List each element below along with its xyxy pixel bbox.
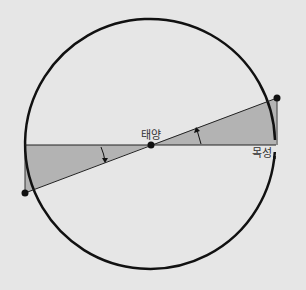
sun-point bbox=[148, 142, 155, 149]
orbit-diagram bbox=[0, 0, 306, 290]
lower-left-point bbox=[22, 190, 29, 197]
sun-label: 태양 bbox=[141, 130, 161, 141]
upper-right-point bbox=[274, 95, 281, 102]
jupiter-label: 목성 bbox=[251, 148, 273, 159]
